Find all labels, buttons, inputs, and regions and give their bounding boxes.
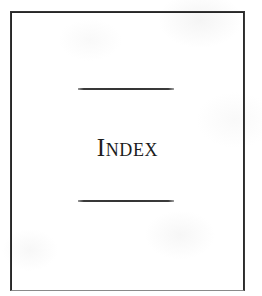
divider-rule-bottom <box>78 200 174 202</box>
page-content: Index <box>10 11 245 291</box>
divider-rule-top <box>78 88 174 90</box>
page-title: Index <box>10 135 245 160</box>
scanned-page: Index <box>0 0 262 296</box>
